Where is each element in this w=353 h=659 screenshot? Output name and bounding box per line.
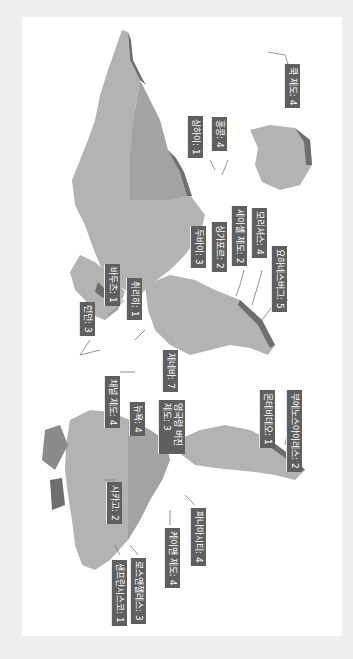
label-zurich: 취리히: 1 bbox=[126, 278, 142, 320]
label-johannesburg: 요하네스버그: 5 bbox=[271, 246, 287, 312]
label-british-virgin-islands: 영국령 버진 제도: 3 bbox=[158, 400, 185, 454]
label-cook-islands: 쿡 제도: 4 bbox=[284, 64, 300, 108]
label-los-angeles: 로스앤젤레스: 3 bbox=[130, 558, 146, 624]
label-panama-city: 파나마시티: 4 bbox=[190, 508, 206, 566]
eurasia-landmass bbox=[72, 30, 205, 300]
label-new-york: 뉴욕: 4 bbox=[129, 402, 145, 436]
australia-landmass bbox=[250, 125, 312, 190]
label-vaduz: 바두츠: 1 bbox=[104, 264, 120, 306]
label-london: 런던: 3 bbox=[79, 302, 95, 336]
label-shanghai: 상하이: 1 bbox=[187, 116, 203, 158]
label-singapore: 싱가포르: 2 bbox=[211, 222, 227, 272]
label-seychelles: 세이셸 제도: 2 bbox=[231, 206, 247, 266]
africa-landmass bbox=[145, 275, 275, 355]
label-montevideo: 몬테비데오: 1 bbox=[259, 390, 275, 448]
label-cayman-islands: 케이맨 제도: 4 bbox=[164, 528, 180, 588]
label-dubai: 두바이: 3 bbox=[190, 226, 206, 268]
label-geneva: 제네바: 7 bbox=[162, 350, 178, 392]
label-mauritius: 모리셔스: 4 bbox=[251, 208, 267, 258]
label-buenos-aires: 부에노스아이레스: 2 bbox=[286, 390, 302, 472]
label-chicago: 시카고: 2 bbox=[106, 482, 122, 524]
label-hong-kong: 홍콩: 4 bbox=[211, 117, 227, 151]
label-san-francisco: 샌프란시스코: 1 bbox=[111, 560, 127, 626]
label-channel-islands: 채널 제도: 4 bbox=[104, 376, 120, 428]
